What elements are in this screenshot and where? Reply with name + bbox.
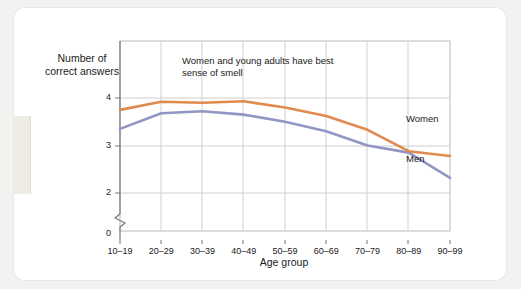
chart-annotation: Women and young adults have best sense o… <box>182 55 342 79</box>
y-axis-label-line1: Number of <box>36 52 128 65</box>
y-tick-label: 0 <box>99 228 111 238</box>
chart-svg <box>14 8 506 280</box>
y-tick-marks <box>115 98 120 193</box>
y-tick-label: 3 <box>99 140 111 150</box>
x-tick-marks <box>120 240 450 244</box>
x-tick-label: 20–29 <box>141 246 181 256</box>
x-tick-label: 60–69 <box>306 246 346 256</box>
y-axis-label-line2: correct answers <box>36 65 128 78</box>
x-axis-label: Age group <box>114 256 454 268</box>
x-tick-label: 50–59 <box>265 246 305 256</box>
x-tick-label: 40–49 <box>224 246 264 256</box>
x-tick-label: 30–39 <box>183 246 223 256</box>
line-chart: Number of correct answers Women and youn… <box>14 8 506 280</box>
x-tick-label: 90–99 <box>430 246 470 256</box>
chart-page: Number of correct answers Women and youn… <box>0 0 521 289</box>
y-axis-label: Number of correct answers <box>36 52 128 78</box>
y-tick-label: 4 <box>99 92 111 102</box>
series-label-women: Women <box>406 113 439 124</box>
x-tick-label: 70–79 <box>348 246 388 256</box>
series-label-men: Men <box>406 153 424 164</box>
x-tick-label: 80–89 <box>389 246 429 256</box>
chart-card: Number of correct answers Women and youn… <box>14 8 506 280</box>
x-tick-label: 10–19 <box>100 246 140 256</box>
y-tick-label: 2 <box>99 187 111 197</box>
